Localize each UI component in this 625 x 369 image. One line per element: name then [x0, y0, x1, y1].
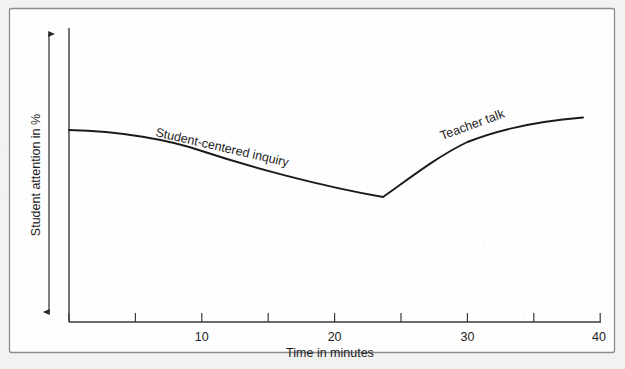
x-tick-label-40: 40 — [592, 330, 606, 344]
x-tick-label-20: 20 — [328, 330, 342, 344]
figure-root: 10 20 30 40 Time in minutes Student atte… — [0, 0, 625, 369]
y-axis-title: Student attention in % — [29, 114, 43, 236]
chart-frame — [10, 9, 615, 353]
attention-curve-chart: 10 20 30 40 Time in minutes Student atte… — [0, 0, 625, 369]
x-tick-label-30: 30 — [460, 330, 474, 344]
x-axis-title: Time in minutes — [286, 346, 374, 360]
x-tick-label-10: 10 — [195, 330, 209, 344]
